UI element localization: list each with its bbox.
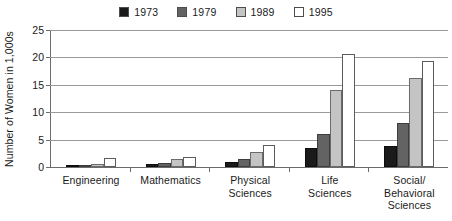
category-label: LifeSciences — [290, 174, 370, 199]
bar-1995-Physical-Sciences[interactable] — [263, 145, 276, 167]
bar-group — [384, 30, 434, 167]
bar-1979-Physical-Sciences[interactable] — [238, 159, 251, 167]
category-label-line: Mathematics — [131, 174, 211, 187]
bar-1973-Mathematics[interactable] — [146, 164, 159, 167]
y-axis-title: Number of Women in 1,000s — [2, 28, 16, 170]
y-tick-mark — [46, 57, 50, 58]
bar-1973-Life-Sciences[interactable] — [305, 148, 318, 167]
bar-1979-Life-Sciences[interactable] — [317, 134, 330, 167]
bar-1989-Life-Sciences[interactable] — [330, 90, 343, 167]
x-tick-mark — [368, 168, 369, 172]
y-tick-mark — [46, 85, 50, 86]
x-axis-category-labels: EngineeringMathematicsPhysicalSciencesLi… — [50, 174, 448, 221]
category-label-line: Physical — [210, 174, 290, 187]
legend-entry-1989[interactable]: 1989 — [236, 7, 275, 18]
bar-1979-Social-Behavioral-Sciences[interactable] — [397, 123, 410, 167]
plot-area: 0510152025 — [50, 30, 448, 168]
y-tick-label: 10 — [28, 107, 44, 118]
bar-1973-Social-Behavioral-Sciences[interactable] — [384, 146, 397, 167]
category-label-line: Sciences — [210, 187, 290, 200]
y-tick-label: 0 — [28, 162, 44, 173]
bar-1973-Physical-Sciences[interactable] — [225, 162, 238, 167]
x-axis-ticks — [50, 168, 448, 173]
y-tick-mark — [46, 112, 50, 113]
bar-1989-Physical-Sciences[interactable] — [250, 152, 263, 167]
legend-swatch-icon-1989 — [236, 7, 246, 17]
category-label-line: Social/ — [370, 174, 450, 187]
bar-1989-Engineering[interactable] — [91, 164, 104, 167]
bar-1973-Engineering[interactable] — [66, 165, 79, 167]
bar-group — [225, 30, 275, 167]
bar-group — [146, 30, 196, 167]
legend-swatch-icon-1973 — [119, 7, 129, 17]
bar-1995-Life-Sciences[interactable] — [342, 54, 355, 167]
category-label: Mathematics — [131, 174, 211, 187]
legend-label: 1973 — [134, 7, 158, 18]
bar-1995-Engineering[interactable] — [104, 158, 117, 167]
bar-1979-Mathematics[interactable] — [158, 163, 171, 167]
legend-entry-1979[interactable]: 1979 — [177, 7, 216, 18]
category-label-line: Behavioral — [370, 187, 450, 200]
legend-entry-1973[interactable]: 1973 — [119, 7, 158, 18]
bar-1989-Mathematics[interactable] — [171, 159, 184, 167]
y-tick-label: 25 — [28, 25, 44, 36]
bar-1995-Social-Behavioral-Sciences[interactable] — [422, 61, 435, 167]
bar-group — [305, 30, 355, 167]
legend-swatch-icon-1979 — [177, 7, 187, 17]
legend-label: 1979 — [192, 7, 216, 18]
y-axis-line — [50, 30, 51, 168]
x-tick-mark — [289, 168, 290, 172]
category-label-line: Engineering — [51, 174, 131, 187]
chart-legend: 1973197919891995 — [0, 7, 452, 18]
legend-entry-1995[interactable]: 1995 — [294, 7, 333, 18]
legend-label: 1995 — [309, 7, 333, 18]
y-tick-label: 15 — [28, 80, 44, 91]
category-label-line: Sciences — [370, 199, 450, 212]
bar-1989-Social-Behavioral-Sciences[interactable] — [409, 78, 422, 167]
bar-chart: 1973197919891995 Number of Women in 1,00… — [0, 0, 452, 221]
y-tick-mark — [46, 140, 50, 141]
category-label-line: Sciences — [290, 187, 370, 200]
legend-label: 1989 — [251, 7, 275, 18]
y-tick-mark — [46, 30, 50, 31]
y-tick-label: 5 — [28, 134, 44, 145]
y-axis-title-text: Number of Women in 1,000s — [3, 31, 15, 167]
category-label: PhysicalSciences — [210, 174, 290, 199]
x-tick-mark — [130, 168, 131, 172]
bar-1979-Engineering[interactable] — [79, 165, 92, 167]
category-label: Social/BehavioralSciences — [370, 174, 450, 212]
legend-swatch-icon-1995 — [294, 7, 304, 17]
category-label-line: Life — [290, 174, 370, 187]
x-tick-mark — [209, 168, 210, 172]
category-label: Engineering — [51, 174, 131, 187]
bar-group — [66, 30, 116, 167]
y-tick-label: 20 — [28, 52, 44, 63]
bar-1995-Mathematics[interactable] — [183, 157, 196, 167]
